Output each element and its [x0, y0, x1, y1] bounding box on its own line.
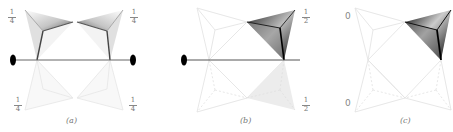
- panel-a-label-bottom-left: 1 4: [14, 97, 22, 113]
- panel-a-label-bottom-right: 1 4: [129, 97, 137, 113]
- panel-b: [181, 8, 300, 112]
- panel-c-top-right-kite: [405, 10, 451, 60]
- panel-c-label-bottom-left: 0: [345, 98, 351, 108]
- panel-a: [10, 10, 136, 110]
- panel-a-left-node: [10, 55, 16, 66]
- panel-a-label-top-right: 1 4: [130, 9, 138, 25]
- panel-b-top-right-kite: [247, 10, 295, 60]
- panel-a-right-node: [130, 55, 136, 66]
- panel-b-label-bottom-right: 1 2: [302, 97, 310, 113]
- panel-a-caption: (a): [66, 116, 77, 125]
- panel-a-label-top-left: 1 4: [8, 9, 16, 25]
- panel-c-label-top-left: 0: [345, 11, 351, 21]
- panel-a-bottom-kites: [25, 60, 123, 110]
- panel-b-left-node: [181, 55, 187, 66]
- panel-b-caption: (b): [240, 116, 251, 125]
- panel-c: [355, 8, 451, 112]
- panel-b-label-top-right: 1 2: [302, 9, 310, 25]
- panel-a-top-left-kite: [25, 10, 73, 60]
- figure-canvas: [0, 0, 453, 132]
- panel-c-caption: (c): [400, 116, 411, 125]
- panel-a-top-right-kite: [77, 10, 123, 60]
- panel-b-bottom-right-kite: [247, 60, 295, 110]
